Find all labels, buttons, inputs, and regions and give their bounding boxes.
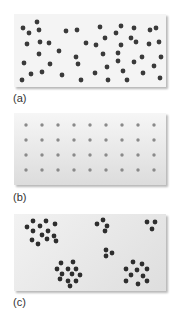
dot [37, 52, 42, 57]
panel-a-label: (a) [13, 92, 26, 104]
panel-c-label: (c) [13, 296, 26, 308]
dot [141, 274, 146, 279]
dot [48, 62, 53, 67]
panel-b-label: (b) [13, 191, 26, 203]
dot [40, 138, 43, 141]
clustered-dots [14, 214, 166, 291]
dot [116, 51, 121, 56]
dot [104, 168, 107, 171]
dot [114, 31, 119, 36]
dot [24, 153, 27, 156]
dot [152, 138, 155, 141]
dot [52, 234, 57, 239]
dot [21, 26, 26, 31]
dot [136, 138, 139, 141]
dot [104, 138, 107, 141]
dot [152, 123, 155, 126]
dot [94, 43, 99, 48]
dot [120, 153, 123, 156]
dot [66, 279, 71, 284]
dot [24, 123, 27, 126]
dot [24, 168, 27, 171]
dot [136, 123, 139, 126]
dot [31, 219, 36, 224]
dot [104, 248, 109, 253]
dot [145, 220, 150, 225]
dot [30, 238, 35, 243]
dot [104, 153, 107, 156]
dot [88, 153, 91, 156]
dot [103, 36, 108, 41]
dot [53, 222, 58, 227]
dot [72, 123, 75, 126]
dot [101, 52, 106, 57]
dot [66, 267, 71, 272]
dot [93, 71, 98, 76]
dot [105, 65, 110, 70]
dot [45, 237, 50, 242]
dot [78, 273, 83, 278]
dot [70, 272, 75, 277]
dot [152, 153, 155, 156]
dot [54, 239, 59, 244]
dot [119, 43, 124, 48]
dot [136, 168, 139, 171]
dot [84, 41, 89, 46]
dot [147, 42, 152, 47]
dot [56, 138, 59, 141]
dot [46, 229, 51, 234]
dot [40, 233, 45, 238]
dot [59, 261, 64, 266]
dot [37, 28, 42, 33]
dot [154, 26, 159, 31]
dot [129, 273, 134, 278]
dot [20, 78, 25, 83]
dot [135, 268, 140, 273]
dot [56, 153, 59, 156]
dot [79, 78, 84, 83]
dot [110, 251, 115, 256]
dot [132, 26, 137, 31]
dot [35, 20, 40, 25]
dot [88, 123, 91, 126]
dot [152, 168, 155, 171]
dot [141, 71, 146, 76]
dot [31, 229, 36, 234]
dot [132, 60, 137, 65]
dot [136, 282, 141, 287]
dot [38, 224, 43, 229]
dot [25, 225, 30, 230]
dot [74, 279, 79, 284]
dot [124, 279, 129, 284]
dot [68, 284, 73, 289]
dot [140, 262, 145, 267]
dot [121, 69, 126, 74]
dot [40, 168, 43, 171]
dot [38, 40, 43, 45]
panel-b-uniform [14, 113, 166, 185]
dot [105, 224, 110, 229]
dot [106, 78, 111, 83]
dot [104, 254, 109, 259]
panel-a-random [14, 14, 166, 87]
dot [72, 138, 75, 141]
dot [58, 277, 63, 282]
dot [72, 168, 75, 171]
dot [60, 272, 65, 277]
dot [71, 260, 76, 265]
dot [40, 123, 43, 126]
dot [98, 25, 103, 30]
dot [74, 55, 79, 60]
dot [120, 168, 123, 171]
dot [140, 55, 145, 60]
dot [145, 267, 150, 272]
dot [56, 168, 59, 171]
uniform-dots [14, 113, 166, 185]
dot [157, 40, 162, 45]
dot [125, 78, 130, 83]
dot [36, 242, 41, 247]
dot [40, 70, 45, 75]
dot [136, 153, 139, 156]
dot [75, 28, 80, 33]
dot [159, 55, 164, 60]
